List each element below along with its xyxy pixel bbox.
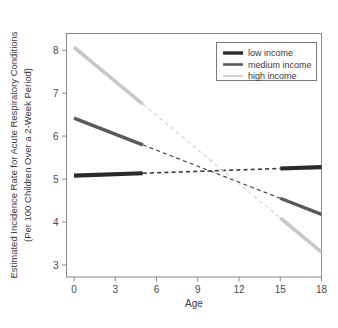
legend-label-low-income: low income	[248, 48, 293, 58]
x-tick-label-6: 6	[154, 284, 160, 295]
x-tick-label-3: 3	[112, 284, 118, 295]
y-tick-label-4: 4	[53, 217, 59, 228]
x-tick-label-15: 15	[275, 284, 287, 295]
x-tick-label-9: 9	[195, 284, 201, 295]
y-axis-title-line2: (Per 100 Children Over a 2-Week Period)	[22, 68, 33, 242]
legend-label-medium-income: medium income	[248, 60, 312, 70]
x-tick-label-18: 18	[316, 284, 328, 295]
y-tick-label-5: 5	[53, 174, 59, 185]
legend-label-high-income: high income	[248, 71, 297, 81]
x-tick-label-0: 0	[71, 284, 77, 295]
respiratory-incidence-line-chart: 0369121518 345678 Age Estimated Incidenc…	[0, 0, 338, 328]
x-axis-title: Age	[185, 298, 203, 309]
y-tick-label-3: 3	[53, 260, 59, 271]
legend: low incomemedium incomehigh income	[217, 43, 317, 82]
x-tick-label-12: 12	[233, 284, 245, 295]
series-low-income-solid-segment-left	[74, 173, 143, 175]
y-tick-label-7: 7	[53, 88, 59, 99]
y-axis-title-line1: Estimated Incidence Rate for Acute Respi…	[8, 31, 19, 278]
series-low-income-solid-segment-right	[280, 167, 321, 168]
y-tick-label-8: 8	[53, 45, 59, 56]
chart-figure: 0369121518 345678 Age Estimated Incidenc…	[0, 0, 338, 328]
y-tick-label-6: 6	[53, 131, 59, 142]
